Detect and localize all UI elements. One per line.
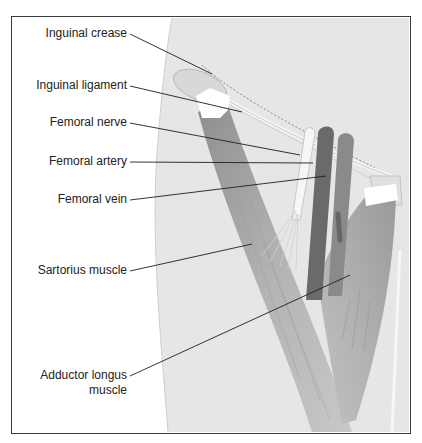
vein-branch <box>338 214 340 240</box>
label-femoral-vein: Femoral vein <box>58 192 127 207</box>
label-femoral-nerve: Femoral nerve <box>50 115 127 130</box>
label-adductor-longus-line1: Adductor longus <box>40 368 127 383</box>
label-inguinal-ligament: Inguinal ligament <box>36 78 127 93</box>
label-inguinal-crease: Inguinal crease <box>46 26 127 41</box>
label-sartorius-muscle: Sartorius muscle <box>38 263 127 278</box>
label-femoral-artery: Femoral artery <box>49 154 127 169</box>
label-adductor-longus-line2: muscle <box>89 383 127 398</box>
